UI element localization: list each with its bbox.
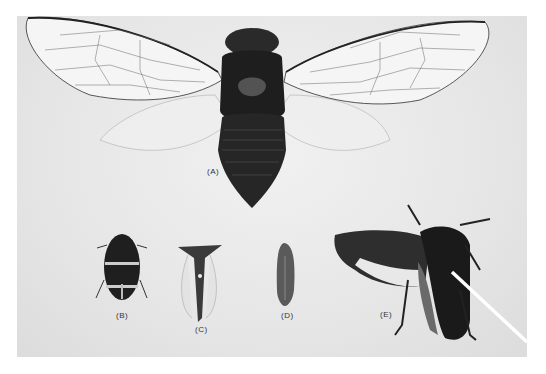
specimen-label-e: (E) bbox=[380, 310, 392, 319]
planthopper-specimen-e bbox=[334, 205, 527, 342]
specimens-illustration bbox=[0, 0, 546, 374]
specimen-label-c: (C) bbox=[195, 325, 208, 334]
bug-specimen-b bbox=[96, 234, 147, 300]
specimen-label-a: (A) bbox=[207, 167, 219, 176]
specimen-label-b: (B) bbox=[116, 311, 128, 320]
cicada-specimen-a bbox=[26, 17, 489, 208]
leafhopper-specimen-d bbox=[277, 243, 295, 306]
treehopper-specimen-c bbox=[178, 245, 222, 322]
specimen-label-d: (D) bbox=[281, 311, 294, 320]
